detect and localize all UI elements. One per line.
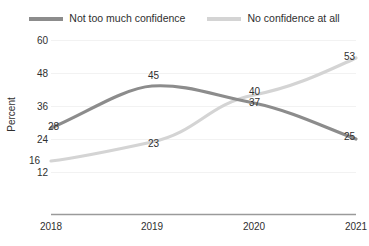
line-chart: Not too much confidence No confidence at… [0,0,369,246]
data-label-series2-2020: 40 [249,87,260,97]
series-line-not-too-much-confidence [51,86,356,139]
data-label-series1-2019: 45 [148,71,159,81]
x-tick-2019: 2019 [130,222,174,232]
data-label-series2-2018: 16 [29,156,40,166]
x-tick-2020: 2020 [232,222,276,232]
data-label-series1-2020: 37 [249,98,260,108]
data-label-series2-2021: 53 [344,52,355,62]
x-tick-2021: 2021 [334,222,369,232]
data-label-series1-2018: 28 [48,122,59,132]
data-label-series1-2021: 25 [344,132,355,142]
data-label-series2-2019: 23 [148,139,159,149]
x-tick-2018: 2018 [29,222,73,232]
